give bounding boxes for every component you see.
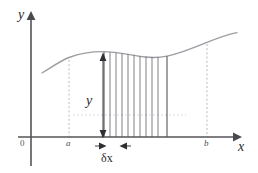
integration-diagram-svg <box>0 0 258 173</box>
canvas-background <box>0 0 258 173</box>
figure-container: y x 0 a b y δx <box>0 0 258 173</box>
y-axis-label: y <box>18 8 24 22</box>
upper-limit-label: b <box>204 139 209 148</box>
x-axis-label: x <box>238 140 244 154</box>
lower-limit-label: a <box>66 139 71 148</box>
origin-label: 0 <box>20 139 25 148</box>
ordinate-label: y <box>86 94 92 108</box>
strip-width-label: δx <box>101 152 113 164</box>
